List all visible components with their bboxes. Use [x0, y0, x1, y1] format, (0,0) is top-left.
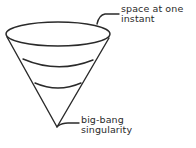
top-ellipse	[6, 22, 110, 46]
bottom-label-line2: singularity	[81, 125, 132, 135]
big-bang-singularity-label: big-bang singularity	[81, 115, 132, 134]
top-leader-line	[97, 14, 119, 24]
top-label-line2: instant	[121, 14, 183, 24]
bottom-leader-line	[58, 123, 79, 126]
space-at-one-instant-label: space at one instant	[121, 4, 183, 23]
middle-slice-arc	[23, 59, 93, 67]
cone-left-side	[7, 37, 57, 127]
lower-slice-arc	[35, 83, 81, 88]
